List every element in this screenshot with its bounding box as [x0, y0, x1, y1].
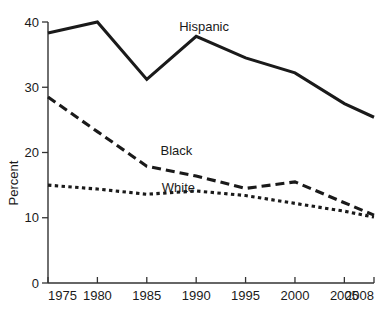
- series-label-black: Black: [161, 143, 193, 158]
- series-lines-group: [48, 22, 374, 217]
- x-axis-ticks: 19751980198519901995200020052008: [48, 277, 374, 303]
- chart-canvas: 010203040 197519801985199019952000200520…: [0, 0, 388, 313]
- y-tick-label: 40: [25, 15, 39, 30]
- series-line-hispanic: [48, 22, 374, 117]
- y-tick-label: 0: [32, 276, 39, 291]
- y-axis-title: Percent: [6, 160, 21, 205]
- series-label-hispanic: Hispanic: [179, 19, 229, 34]
- x-tick-label: 1990: [182, 288, 211, 303]
- status-dropout-rate-line-chart: 010203040 197519801985199019952000200520…: [0, 0, 388, 313]
- x-tick-label: 2000: [281, 288, 310, 303]
- x-tick-label: 1980: [83, 288, 112, 303]
- x-tick-label: 1985: [132, 288, 161, 303]
- y-tick-label: 20: [25, 145, 39, 160]
- y-axis-ticks: 010203040: [25, 15, 48, 291]
- series-line-black: [48, 97, 374, 215]
- x-tick-label: 1975: [48, 288, 77, 303]
- y-tick-label: 30: [25, 80, 39, 95]
- x-tick-label: 1995: [231, 288, 260, 303]
- x-tick-label: 2008: [345, 288, 374, 303]
- y-tick-label: 10: [25, 210, 39, 225]
- series-label-white: White: [162, 180, 195, 195]
- series-line-white: [48, 185, 374, 217]
